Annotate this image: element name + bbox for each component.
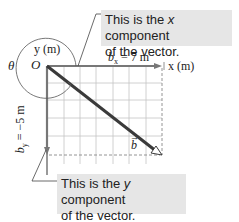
callout-var: x	[168, 12, 175, 27]
x-component-callout: This is the x component of the vector.	[101, 10, 232, 46]
by-subscript: y	[20, 143, 29, 147]
x-callout-leader	[78, 14, 103, 66]
by-symbol: b	[13, 147, 27, 153]
callout-text: This is the	[61, 176, 124, 191]
vector-arrow-glyph: →	[130, 132, 139, 142]
x-axis-label: x (m)	[168, 59, 194, 74]
bx-value: = 7 m	[118, 50, 149, 64]
x-component-arrowhead	[154, 63, 162, 69]
callout-text: This is the	[105, 12, 168, 27]
y-axis-label: y (m)	[34, 42, 60, 57]
y-component-callout: This is the y component of the vector.	[57, 174, 186, 214]
callout-text: component	[105, 28, 169, 43]
origin-label: O	[31, 57, 40, 73]
vector-b-label: → b	[131, 140, 137, 150]
angle-label: θ	[8, 58, 14, 74]
callout-text: component	[61, 192, 125, 207]
by-label: by = −5 m	[13, 87, 29, 153]
y-component-arrowhead	[44, 147, 50, 155]
by-value: = −5 m	[13, 105, 27, 143]
vector-b	[47, 66, 156, 151]
callout-var: y	[124, 176, 131, 191]
bx-label: bx = 7 m	[108, 50, 149, 66]
callout-text: of the vector.	[61, 208, 135, 222]
